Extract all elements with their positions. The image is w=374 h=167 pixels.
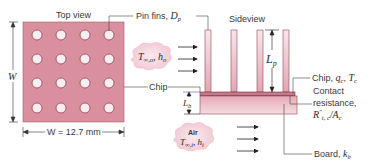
side-view-title: Sideview xyxy=(229,14,266,24)
svg-text:Board, kb: Board, kb xyxy=(314,148,351,160)
air-label: Air xyxy=(188,129,198,136)
contact-label-line2: resistance, xyxy=(313,98,357,108)
chip-layer xyxy=(200,92,295,96)
outer-flow: T∞,o, ho xyxy=(131,42,197,71)
outer-flow-arrows xyxy=(178,47,197,71)
contact-label-line1: Contact xyxy=(313,86,345,96)
contact-resistance-callout: Contact resistance, R″t, c/Ac xyxy=(290,86,357,121)
chip-left-label: Chip xyxy=(149,82,168,92)
chip-left-callout: Chip xyxy=(124,82,200,93)
board xyxy=(200,96,297,114)
svg-text:Chip, qc, Tc: Chip, qc, Tc xyxy=(312,72,357,84)
width-dimension-label: W = 12.7 mm xyxy=(47,127,101,137)
inner-flow-arrows xyxy=(237,127,258,151)
svg-text:Pin fins, Dp: Pin fins, Dp xyxy=(136,10,182,22)
width-symbol: W xyxy=(8,71,18,82)
svg-text:T∞,o, ho: T∞,o, ho xyxy=(138,51,167,63)
chip-right-label: Chip, xyxy=(312,73,336,83)
side-view: Sideview Lp Lb xyxy=(182,14,297,114)
svg-text:R″t, c/Ac: R″t, c/Ac xyxy=(312,108,342,121)
inner-flow: Air T∞,i, hi xyxy=(174,122,258,151)
svg-text:Lp: Lp xyxy=(265,52,277,68)
board-label: Board, xyxy=(314,149,343,159)
top-view-title: Top view xyxy=(56,10,92,20)
pin-fin-heat-sink-diagram: Top view W W = 12.7 mm xyxy=(0,0,374,167)
pin-fins-label: Pin fins, xyxy=(136,11,171,21)
top-view: Top view W W = 12.7 mm xyxy=(8,10,124,137)
svg-text:Lb: Lb xyxy=(182,98,192,109)
